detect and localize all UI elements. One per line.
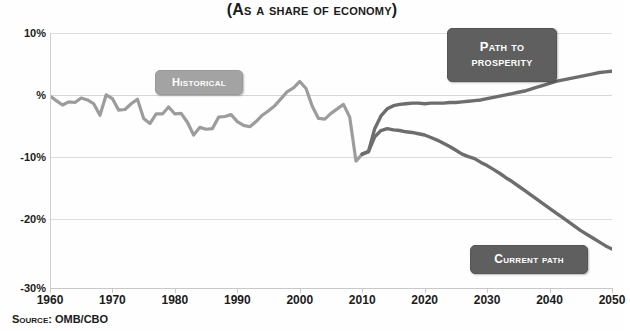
x-tick-2000: 2000 — [270, 293, 330, 307]
callout-prosperity-line2: Prosperity — [471, 54, 532, 69]
x-tickmark-2000 — [300, 288, 301, 293]
callout-current-label: Current Path — [494, 253, 564, 266]
x-axis — [50, 288, 612, 289]
x-tickmark-1970 — [112, 288, 113, 293]
x-tickmark-1990 — [237, 288, 238, 293]
callout-current-path[interactable]: Current Path — [470, 245, 588, 274]
callout-historical-label: Historical — [172, 76, 226, 88]
callout-prosperity-line1: Path to — [480, 39, 525, 54]
source-note: Source: OMB/CBO — [12, 313, 108, 325]
x-tickmark-1980 — [175, 288, 176, 293]
x-tickmark-1960 — [50, 288, 51, 293]
y-axis-labels: 10% % -10% -20% -30% — [0, 0, 46, 331]
x-tick-2040: 2040 — [520, 293, 580, 307]
x-tickmark-2050 — [612, 288, 613, 293]
series-line-current-path — [362, 129, 612, 249]
x-tickmark-2030 — [487, 288, 488, 293]
x-tick-2010: 2010 — [332, 293, 392, 307]
chart-title: (As a Share of Economy) — [0, 1, 624, 19]
x-tick-1970: 1970 — [82, 293, 142, 307]
y-axis — [50, 33, 51, 288]
x-tick-1980: 1980 — [145, 293, 205, 307]
x-tick-2020: 2020 — [395, 293, 455, 307]
y-tick-minus-20: -20% — [2, 214, 46, 225]
callout-path-to-prosperity[interactable]: Path to Prosperity — [447, 28, 557, 82]
x-tick-2030: 2030 — [457, 293, 517, 307]
x-tickmark-2040 — [550, 288, 551, 293]
x-tickmark-2010 — [362, 288, 363, 293]
callout-historical[interactable]: Historical — [155, 70, 243, 95]
y-tick-10: 10% — [2, 28, 46, 39]
x-tick-1990: 1990 — [207, 293, 267, 307]
callout-prosperity-label: Path to Prosperity — [471, 40, 532, 69]
y-tick-minus-10: -10% — [2, 152, 46, 163]
x-tick-2050: 2050 — [582, 293, 630, 307]
x-tickmark-2020 — [425, 288, 426, 293]
y-tick-0: % — [2, 90, 46, 101]
series-line-path-to-prosperity — [362, 71, 612, 154]
x-tick-1960: 1960 — [20, 293, 80, 307]
